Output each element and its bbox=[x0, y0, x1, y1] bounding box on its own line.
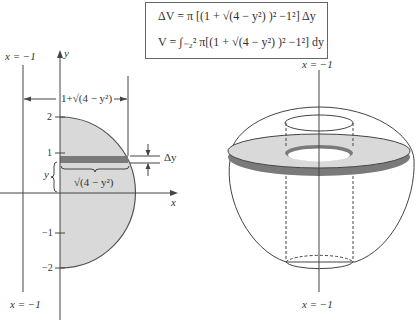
line-label-top-left: x = −1 bbox=[5, 50, 36, 62]
horizontal-strip bbox=[60, 156, 128, 163]
width-label: 1+√(4 − y²) bbox=[61, 92, 112, 104]
tick-label-neg2: −2 bbox=[42, 262, 53, 273]
line-label-bottom-right: x = −1 bbox=[302, 298, 333, 310]
line-label-bottom-left: x = −1 bbox=[10, 298, 41, 310]
y-axis-label: y bbox=[64, 47, 69, 59]
x-axis-label: x bbox=[171, 196, 176, 208]
height-label: y bbox=[44, 168, 49, 180]
volume-integral-formula: V = ∫₋₂² π[(1 + √(4 − y²) )² −1²] dy bbox=[158, 35, 324, 50]
delta-y-label: Δy bbox=[164, 151, 177, 163]
delta-v-formula: ΔV = π [(1 + √(4 − y²) )² −1²] Δy bbox=[158, 9, 316, 24]
inner-width-label: √(4 − y²) bbox=[74, 176, 113, 188]
tick-label-neg1: −1 bbox=[42, 227, 53, 238]
brace-vertical bbox=[51, 162, 57, 192]
tick-label-1: 1 bbox=[47, 147, 52, 158]
tick-label-2: 2 bbox=[47, 111, 52, 122]
solid-outline bbox=[229, 107, 414, 262]
formula-box: ΔV = π [(1 + √(4 − y²) )² −1²] Δy V = ∫₋… bbox=[145, 2, 328, 59]
line-label-top-right: x = −1 bbox=[302, 58, 333, 70]
